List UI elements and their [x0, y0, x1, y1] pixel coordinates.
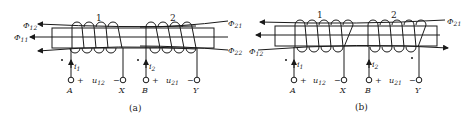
minus-sign-u21: − — [409, 76, 416, 85]
panel-b-caption: (b) — [355, 102, 368, 112]
polarity-dot-2 — [137, 59, 139, 61]
flux-phi12-label: Φ12 — [249, 47, 263, 57]
terminal-A-label: A — [66, 86, 73, 95]
minus-sign-u21: − — [187, 76, 194, 85]
flux-phi11-label: Φ11 — [14, 33, 28, 43]
polarity-dot-1 — [61, 59, 63, 61]
flux-phi21-label: Φ21 — [447, 17, 461, 27]
flux-phi22-label: Φ22 — [228, 46, 242, 56]
plus-sign-u12: + — [300, 76, 307, 85]
voltage-u12-label: u12 — [92, 76, 105, 86]
terminal-B — [366, 77, 372, 83]
polarity-dot-2 — [411, 57, 413, 59]
terminal-Y-label: Y — [415, 86, 421, 95]
terminal-A — [291, 77, 297, 83]
terminal-B-label: B — [141, 86, 148, 95]
voltage-u21-label: u21 — [166, 76, 179, 86]
coil-2-label: 2 — [391, 10, 397, 20]
panel-a — [30, 21, 228, 83]
flux-phi21-label: Φ21 — [228, 19, 242, 29]
terminal-Y — [416, 77, 422, 83]
voltage-u12-label: u12 — [313, 76, 326, 86]
magnetic-core — [52, 28, 214, 48]
terminal-X-label: X — [118, 86, 125, 95]
magnetic-core — [275, 26, 437, 46]
coil-1-label: 1 — [317, 10, 323, 20]
terminal-X — [341, 77, 347, 83]
current-i2-label: i2 — [372, 60, 379, 70]
terminal-Y — [194, 77, 200, 83]
current-i1-label: i1 — [74, 62, 80, 72]
plus-sign-u12: + — [77, 76, 84, 85]
flux-phi12-label: Φ12 — [23, 21, 37, 31]
panel-b — [256, 20, 448, 83]
panel-a-caption: (a) — [129, 103, 141, 113]
coil-2-label: 2 — [170, 13, 176, 23]
coil-1-label: 1 — [96, 13, 102, 23]
terminal-B — [143, 77, 149, 83]
current-i2-label: i2 — [149, 62, 156, 72]
terminal-B-label: B — [364, 86, 371, 95]
terminal-A — [68, 77, 74, 83]
terminal-X — [120, 77, 126, 83]
polarity-dot-1 — [285, 59, 287, 61]
minus-sign-u12: − — [113, 76, 120, 85]
minus-sign-u12: − — [334, 76, 341, 85]
coupled-coils-diagram: 1 2 Φ12 Φ11 Φ21 Φ22 i1 i2 + u12 − + u21 … — [0, 0, 474, 123]
voltage-u21-label: u21 — [389, 76, 402, 86]
terminal-A-label: A — [289, 86, 296, 95]
current-i1-label: i1 — [297, 60, 303, 70]
coil-2 — [368, 20, 426, 52]
plus-sign-u21: + — [152, 76, 159, 85]
plus-sign-u21: + — [375, 76, 382, 85]
terminal-X-label: X — [339, 86, 346, 95]
terminal-Y-label: Y — [193, 86, 199, 95]
